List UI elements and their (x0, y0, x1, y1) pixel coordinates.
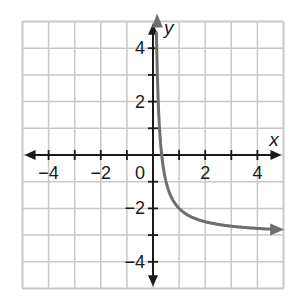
x-tick-label: 2 (200, 163, 210, 183)
axes (25, 24, 282, 287)
curve-arrow-up-icon (152, 13, 163, 27)
function-curve (152, 13, 284, 235)
y-tick-label: −2 (124, 198, 145, 218)
y-tick-label: 4 (135, 38, 145, 58)
x-tick-label: 4 (252, 163, 262, 183)
x-tick-label: −4 (38, 163, 59, 183)
coordinate-plane: −4−202442−2−4 x y (0, 0, 291, 305)
y-axis-label: y (162, 17, 175, 38)
y-tick-label: 2 (135, 92, 145, 112)
y-tick-label: −4 (124, 252, 145, 272)
x-tick-label: −2 (91, 163, 112, 183)
x-axis-label: x (268, 129, 280, 150)
curve-arrow-right-icon (270, 224, 284, 236)
x-tick-label: 0 (135, 163, 145, 183)
